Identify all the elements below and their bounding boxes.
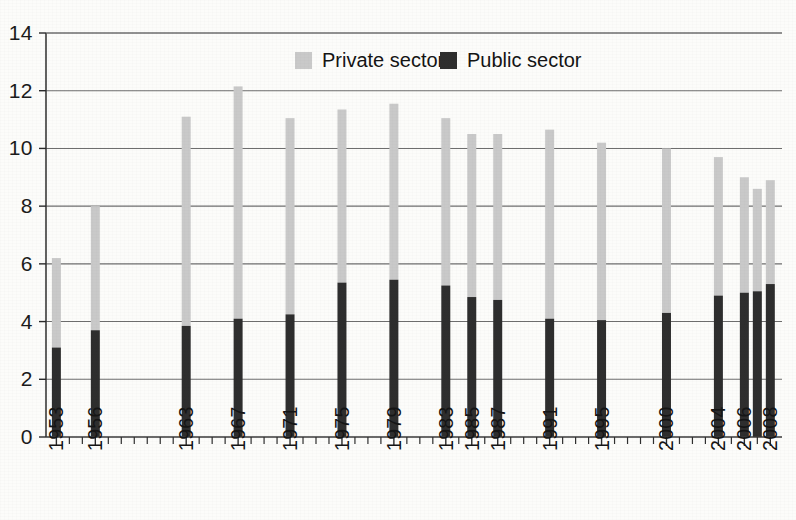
bar-segment-private [714,157,723,296]
bar-segment-private [182,117,191,326]
x-axis-tick-label: 1987 [487,406,509,451]
bar-segment-private [493,134,502,300]
chart-legend: Private sectorPublic sector [295,49,582,71]
y-axis-tick-label: 14 [9,21,33,44]
chart-container: 14121086420 1953195619631967197119751979… [0,0,796,520]
bar-segment-private [389,104,398,280]
bar-segment-private [597,143,606,320]
y-axis-tick-label: 6 [21,252,33,275]
gridlines-group [46,33,782,379]
x-axis-tick-label: 1953 [45,406,67,451]
y-axis-tick-label: 4 [21,310,33,333]
bar-segment-private [662,148,671,312]
x-axis-tick-label: 1985 [461,406,483,451]
bar-segment-private [337,109,346,282]
legend-label-private: Private sector [322,49,445,71]
bar-segment-private [234,86,243,318]
x-axis-tick-label: 1995 [591,406,613,451]
y-axis-labels-group: 14121086420 [9,21,33,448]
bar-segment-private [766,180,775,284]
bar-segment-private [740,177,749,292]
x-axis-tick-label: 1975 [331,406,353,451]
bar-segment-private [753,189,762,291]
x-axis-tick-label: 1971 [279,406,301,451]
bar-segment-private [286,118,295,314]
x-axis-tick-label: 1979 [383,406,405,451]
y-axis-tick-label: 8 [21,194,33,217]
x-axis-tick-label: 1991 [539,406,561,451]
bar-segment-private [91,206,100,330]
x-axis-tick-label: 2008 [759,406,781,451]
bar-segment-private [545,130,554,319]
bar-segment-private [467,134,476,297]
y-axis-tick-label: 10 [9,136,33,159]
x-axis-tick-label: 2004 [707,406,729,451]
y-axis-tick-label: 2 [21,367,33,390]
y-axis-tick-label: 0 [21,425,33,448]
x-axis-tick-label: 1956 [84,406,106,451]
y-axis-tick-label: 12 [9,79,33,102]
x-axis-tick-label: 1967 [227,406,249,451]
stacked-bar-chart: 14121086420 1953195619631967197119751979… [0,0,796,520]
x-axis-tick-label: 1963 [175,406,197,451]
x-axis-tick-label: 2000 [655,406,677,451]
legend-swatch-public [440,52,457,69]
bar-segment-private [52,258,61,347]
legend-label-public: Public sector [467,49,582,71]
bars-group [52,86,775,437]
x-axis-labels-group: 1953195619631967197119751979198319851987… [45,406,781,451]
legend-swatch-private [295,52,312,69]
x-axis-tick-label: 2006 [733,406,755,451]
bar-segment-private [441,118,450,285]
x-axis-tick-label: 1983 [435,406,457,451]
